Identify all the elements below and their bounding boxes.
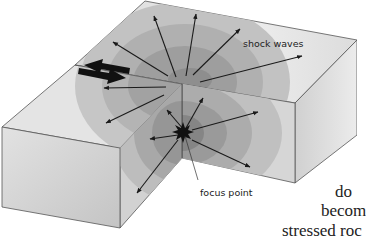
body-text-line-1: do: [335, 182, 352, 202]
shock-waves-label: shock waves: [243, 38, 304, 49]
focus-point-label: focus point: [200, 187, 253, 198]
body-text-line-3: stressed roc: [282, 221, 362, 240]
body-text-line-2: becom: [321, 201, 366, 221]
